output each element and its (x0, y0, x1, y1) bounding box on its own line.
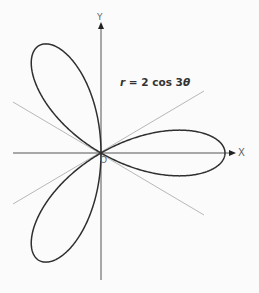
guide-line-30 (13, 91, 204, 204)
origin-label: O (100, 155, 107, 165)
equation-body: = 2 cos 3 (125, 76, 183, 88)
equation-theta: θ (183, 76, 190, 88)
y-axis-arrow-icon (98, 22, 104, 29)
y-axis-label: Y (97, 12, 103, 22)
x-axis-label: X (238, 147, 245, 158)
equation-label: r = 2 cos 3θ (120, 76, 190, 88)
guide-line-minus-30 (13, 102, 204, 215)
x-axis-arrow-icon (229, 150, 236, 156)
polar-rose-diagram (0, 0, 259, 293)
